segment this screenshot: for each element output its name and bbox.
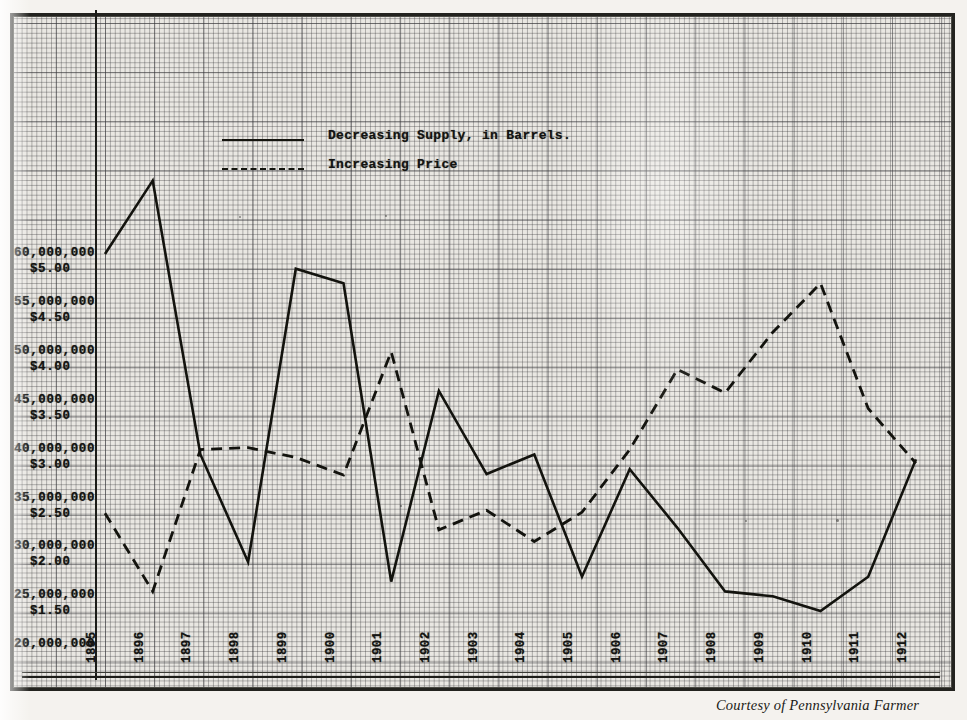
chart-plot-area bbox=[0, 0, 967, 720]
legend-key-dashed-line-icon bbox=[222, 168, 304, 170]
legend-label-price: Increasing Price bbox=[328, 157, 458, 172]
legend-key-solid-line-icon bbox=[222, 139, 304, 141]
supply-line bbox=[105, 181, 916, 611]
scan-speck bbox=[385, 215, 387, 217]
chart-caption: Courtesy of Pennsylvania Farmer bbox=[716, 697, 919, 714]
legend-label-supply: Decreasing Supply, in Barrels. bbox=[328, 128, 571, 143]
scan-speck bbox=[836, 519, 839, 522]
scanned-page: 60,000,000$5.0055,000,000$4.5050,000,000… bbox=[0, 0, 967, 720]
scan-speck bbox=[239, 216, 241, 218]
scan-speck bbox=[745, 520, 747, 522]
price-line bbox=[105, 283, 916, 591]
scan-speck bbox=[400, 505, 402, 507]
